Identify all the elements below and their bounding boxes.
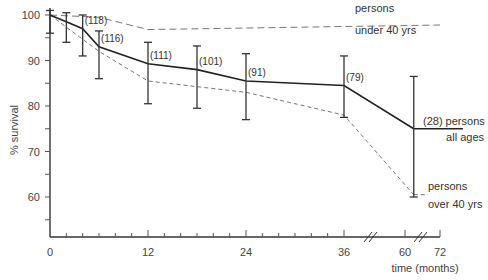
- x-axis-title: time (months): [391, 262, 458, 274]
- sample-size-label: (111): [150, 50, 172, 61]
- axes: 60708090100% survival01224366072time (mo…: [8, 8, 459, 274]
- sample-size-label: (118): [85, 15, 108, 26]
- x-tick-label: 36: [338, 246, 350, 258]
- label-under-40-1: persons: [355, 2, 395, 14]
- sample-size-label: (79): [346, 72, 364, 83]
- x-tick-label: 24: [240, 246, 252, 258]
- y-tick-label: 100: [22, 9, 40, 21]
- y-axis-title: % survival: [8, 105, 20, 155]
- sample-size-label: (101): [199, 56, 222, 67]
- label-under-40-2: under 40 yrs: [355, 24, 417, 36]
- label-over-40-1: persons: [428, 180, 468, 192]
- y-tick-label: 90: [28, 55, 40, 67]
- survival-chart: 60708090100% survival01224366072time (mo…: [0, 0, 488, 280]
- sample-size-label: (116): [101, 33, 124, 44]
- x-tick-label: 12: [142, 246, 154, 258]
- y-tick-label: 80: [28, 100, 40, 112]
- y-tick-label: 60: [28, 191, 40, 203]
- x-tick-label: 72: [434, 246, 446, 258]
- labels-layer: (118)(116)(111)(101)(91)(79)(28) persons…: [85, 2, 486, 210]
- x-tick-label: 0: [47, 246, 53, 258]
- label-all-ages-1: (28) persons: [423, 115, 485, 127]
- x-tick-label: 60: [399, 246, 411, 258]
- sample-size-label: (91): [248, 67, 266, 78]
- label-over-40-2: over 40 yrs: [428, 198, 483, 210]
- y-tick-label: 70: [28, 146, 40, 158]
- label-all-ages-2: all ages: [446, 131, 484, 143]
